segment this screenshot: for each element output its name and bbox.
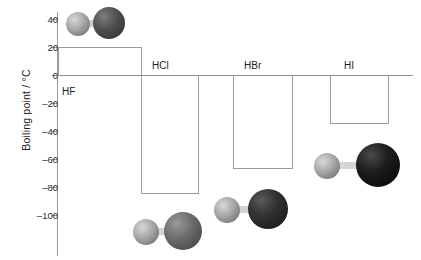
- y-tick-7: –100: [0, 215, 58, 216]
- bar-hcl[interactable]: [141, 75, 199, 194]
- molecule-hydrogen-chloride: [128, 211, 208, 253]
- molecule-hydrogen-iodide: [308, 142, 408, 192]
- y-tick-1: 20: [0, 47, 58, 48]
- y-tick-5: –60: [0, 159, 58, 160]
- boiling-point-bar-chart: Boiling point / °C 40200–20–40–60–80–100…: [0, 0, 421, 260]
- bar-hf[interactable]: [58, 47, 142, 75]
- y-tick-4: –40: [0, 131, 58, 132]
- y-tick-label: –100: [24, 210, 58, 221]
- y-tick-3: –20: [0, 103, 58, 104]
- y-tick-label: –40: [24, 126, 58, 137]
- y-tick-label: 20: [24, 42, 58, 53]
- bar-hbr[interactable]: [233, 75, 293, 169]
- y-tick-label: –20: [24, 98, 58, 109]
- y-tick-2: 0: [0, 75, 58, 76]
- molecule-hydrogen-bromide: [210, 188, 296, 234]
- molecule-hydrogen-fluoride: [62, 6, 130, 42]
- y-tick-label: 0: [24, 70, 58, 81]
- y-tick-6: –80: [0, 187, 58, 188]
- y-axis-title: Boiling point / °C: [20, 30, 32, 190]
- y-tick-label: –80: [24, 182, 58, 193]
- y-tick-label: 40: [24, 14, 58, 25]
- bar-hi[interactable]: [330, 75, 389, 124]
- y-tick-0: 40: [0, 19, 58, 20]
- y-tick-label: –60: [24, 154, 58, 165]
- bar-label-hi: HI: [344, 60, 354, 71]
- bar-label-hcl: HCl: [152, 60, 169, 71]
- bar-label-hf: HF: [62, 86, 75, 97]
- bar-label-hbr: HBr: [244, 60, 261, 71]
